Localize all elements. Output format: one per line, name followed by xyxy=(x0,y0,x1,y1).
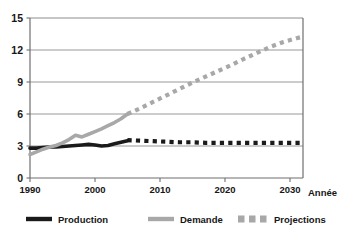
y-tick-label-0: 0 xyxy=(17,172,23,184)
legend-swatch-square xyxy=(260,216,267,223)
legend-item-demande: Demande xyxy=(148,214,223,225)
y-tick-label-9: 9 xyxy=(17,76,23,88)
legend-swatch-square xyxy=(238,216,245,223)
y-tick-label-6: 6 xyxy=(17,108,23,120)
legend-label-production: Production xyxy=(58,214,108,225)
x-axis-title: Année xyxy=(308,187,337,198)
legend-swatch-square xyxy=(249,216,256,223)
y-tick-label-12: 12 xyxy=(11,44,23,56)
plot-background xyxy=(30,18,303,178)
x-tick-label-2030: 2030 xyxy=(279,184,300,195)
legend-label-demande: Demande xyxy=(180,214,223,225)
x-tick-label-2020: 2020 xyxy=(214,184,235,195)
x-tick-label-1990: 1990 xyxy=(19,184,40,195)
y-axis-labels: 03691215 xyxy=(11,12,23,184)
x-tick-marks xyxy=(30,178,290,182)
chart-figure: · · 03691215 19902000201020202030 Année … xyxy=(0,0,347,235)
chart-legend: ProductionDemandeProjections xyxy=(26,214,326,225)
legend-label-projections: Projections xyxy=(274,214,326,225)
legend-item-production: Production xyxy=(26,214,108,225)
x-tick-label-2000: 2000 xyxy=(84,184,105,195)
x-tick-label-2010: 2010 xyxy=(149,184,170,195)
line-chart: 03691215 19902000201020202030 Année Prod… xyxy=(0,0,347,235)
y-tick-label-15: 15 xyxy=(11,12,23,24)
y-tick-label-3: 3 xyxy=(17,140,23,152)
legend-item-projections: Projections xyxy=(238,214,326,225)
x-axis-labels: 19902000201020202030 xyxy=(19,184,300,195)
